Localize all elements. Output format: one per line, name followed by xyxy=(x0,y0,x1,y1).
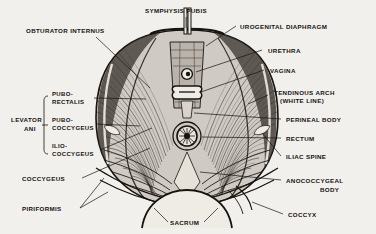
perineal-body xyxy=(181,101,193,118)
label-pubococcygeus-line2: COCCYGEUS xyxy=(52,125,94,131)
label-obturator-internus: OBTURATOR INTERNUS xyxy=(26,27,105,34)
label-levator-ani-line1: LEVATOR xyxy=(11,116,42,123)
leader-piriformis xyxy=(80,192,108,208)
label-rectum: RECTUM xyxy=(286,135,315,142)
vagina-opening xyxy=(172,86,201,99)
rectum-opening xyxy=(173,122,201,150)
label-vagina: VAGINA xyxy=(270,67,296,74)
illustration xyxy=(96,8,278,228)
label-coccyx: COCCYX xyxy=(288,211,317,218)
leader-coccyx xyxy=(252,202,283,214)
levator-ani-brace xyxy=(42,96,48,154)
label-tendinous-arch-line1: TENDINOUS ARCH xyxy=(274,89,335,96)
label-pubococcygeus-line1: PUBO- xyxy=(52,117,73,123)
label-iliococcygeus-line1: ILIO- xyxy=(52,143,67,149)
label-iliococcygeus-line2: COCCYGEUS xyxy=(52,151,94,157)
urethra-opening xyxy=(182,69,193,80)
label-puborectalis-line1: PUBO- xyxy=(52,91,73,97)
label-puborectalis-line2: RECTALIS xyxy=(52,99,84,105)
label-coccygeus: COCCYGEUS xyxy=(22,175,65,182)
label-urethra: URETHRA xyxy=(268,47,301,54)
label-anococcygeal-body-line2: BODY xyxy=(320,186,340,193)
label-perineal-body: PERINEAL BODY xyxy=(286,116,342,123)
label-levator-ani-line2: ANI xyxy=(24,125,36,132)
label-anococcygeal-body-line1: ANOCOCCYGEAL xyxy=(286,177,343,184)
label-symphysis-pubis: SYMPHYSIS PUBIS xyxy=(145,7,207,14)
label-piriformis: PIRIFORMIS xyxy=(22,205,62,212)
pelvic-floor-diagram: OBTURATOR INTERNUS SYMPHYSIS PUBIS UROGE… xyxy=(0,0,376,234)
label-tendinous-arch-line2: (WHITE LINE) xyxy=(280,97,324,104)
label-iliac-spine: ILIAC SPINE xyxy=(286,153,326,160)
label-sacrum: SACRUM xyxy=(170,219,199,226)
label-urogenital-diaphragm: UROGENITAL DIAPHRAGM xyxy=(240,23,327,30)
leader-piriformis-b xyxy=(80,178,104,208)
